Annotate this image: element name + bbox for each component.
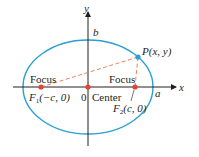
label-focus-left: Focus <box>30 73 56 85</box>
focus-point-f1 <box>38 84 43 89</box>
dashed-line-f2-to-p <box>135 57 138 87</box>
ellipse-diagram: y x b a P(x, y) Focus Focus F1(−c, 0) 0 … <box>0 0 199 157</box>
f1-coords: (−c, 0) <box>39 91 70 104</box>
label-focus-right: Focus <box>109 73 135 85</box>
center-point <box>85 84 90 89</box>
f2-leader-line <box>131 90 134 101</box>
x-axis-label: x <box>178 81 184 93</box>
label-b: b <box>93 26 99 38</box>
focus-point-f2 <box>132 84 137 89</box>
y-axis-label: y <box>83 2 89 14</box>
label-f1: F1(−c, 0) <box>28 91 70 105</box>
label-f2: F2(c, 0) <box>112 102 147 116</box>
label-a: a <box>155 87 161 99</box>
point-p <box>135 54 140 59</box>
label-point-p: P(x, y) <box>141 45 172 58</box>
f2-coords: (c, 0) <box>123 102 147 115</box>
label-origin: 0 <box>81 91 87 103</box>
